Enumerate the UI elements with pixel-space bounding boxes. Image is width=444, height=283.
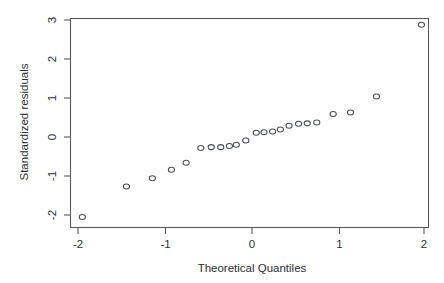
y-tick-label: -1	[46, 171, 58, 181]
y-tick-labels: -2 -1 0 1 2 3	[46, 17, 58, 220]
data-point	[286, 123, 292, 128]
x-axis-ticks	[78, 228, 424, 235]
data-point-group	[79, 22, 424, 219]
x-tick-label: 0	[249, 238, 255, 250]
data-point	[314, 120, 320, 125]
y-axis-title: Standardized residuals	[18, 63, 30, 180]
x-tick-label: -1	[160, 238, 170, 250]
data-point	[218, 145, 224, 150]
data-point	[295, 121, 301, 126]
data-point	[183, 160, 189, 165]
data-point	[198, 145, 204, 150]
data-point	[270, 129, 276, 134]
data-point	[253, 130, 259, 135]
data-point	[243, 138, 249, 143]
data-point	[261, 130, 267, 135]
data-point	[168, 167, 174, 172]
x-tick-label: 1	[336, 238, 342, 250]
data-point	[79, 214, 85, 219]
y-tick-label: 2	[46, 56, 58, 62]
data-point	[277, 127, 283, 132]
data-point	[373, 94, 379, 99]
x-tick-labels: -2 -1 0 1 2	[73, 238, 427, 250]
y-tick-label: 1	[46, 95, 58, 101]
data-point	[208, 145, 214, 150]
y-axis-ticks	[64, 20, 71, 215]
qq-plot-screenshot: -2 -1 0 1 2 -2 -1 0 1 2 3 Theoretical Qu…	[0, 0, 444, 283]
data-point	[149, 176, 155, 181]
data-point	[123, 184, 129, 189]
y-tick-label: 3	[46, 17, 58, 23]
data-point	[330, 111, 336, 116]
data-point	[418, 22, 424, 27]
data-point	[304, 121, 310, 126]
data-point	[347, 110, 353, 115]
x-axis-title: Theoretical Quantiles	[198, 262, 307, 274]
plot-frame	[71, 19, 429, 228]
y-tick-label: 0	[46, 134, 58, 140]
x-tick-label: -2	[73, 238, 83, 250]
qq-plot-figure: -2 -1 0 1 2 -2 -1 0 1 2 3 Theoretical Qu…	[0, 0, 444, 283]
data-point	[233, 142, 239, 147]
data-point	[226, 143, 232, 148]
x-tick-label: 2	[421, 238, 427, 250]
y-tick-label: -2	[46, 210, 58, 220]
